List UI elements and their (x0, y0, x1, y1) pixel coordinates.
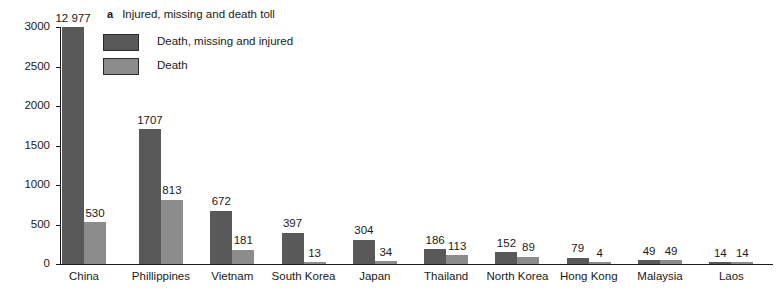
y-tick-label: 2000 (0, 100, 50, 112)
bar-value-label: 89 (522, 242, 535, 254)
y-tick-label: 500 (0, 219, 50, 231)
bar-value-label: 113 (448, 241, 466, 253)
bar-value-label: 186 (426, 235, 445, 247)
bar-death (660, 260, 682, 264)
bar-death (304, 262, 326, 264)
category-label: China (69, 271, 99, 283)
plot-area: 12 9775301707813672181397133043418611315… (60, 27, 773, 264)
bar-group: 1707813 (139, 27, 183, 264)
category-label: Hong Kong (560, 271, 618, 283)
bar-value-label: 14 (714, 248, 727, 260)
bar-death-missing-injured (638, 260, 660, 264)
bar-death (232, 250, 254, 264)
y-tick-label: 0 (0, 258, 50, 270)
category-label: Malaysia (637, 271, 682, 283)
bar-death-missing-injured (62, 27, 84, 264)
bar-group: 794 (567, 27, 611, 264)
bar-group: 12 977530 (62, 27, 106, 264)
bar-chart: a Injured, missing and death toll Death,… (0, 0, 783, 293)
category-label: Laos (719, 271, 744, 283)
bar-death (375, 261, 397, 264)
category-label: Phillippines (132, 271, 190, 283)
category-label: South Korea (272, 271, 336, 283)
bar-death (731, 262, 753, 264)
bar-group: 672181 (210, 27, 254, 264)
bar-value-label: 397 (283, 218, 302, 230)
bar-group: 15289 (495, 27, 539, 264)
bar-death-missing-injured (139, 129, 161, 264)
bar-value-label: 304 (354, 225, 373, 237)
bar-value-label: 672 (212, 196, 231, 208)
y-tick-label: 1500 (0, 140, 50, 152)
category-label: Vietnam (211, 271, 253, 283)
y-tick-label: 1000 (0, 179, 50, 191)
bar-value-label: 49 (643, 246, 656, 258)
bar-death (161, 200, 183, 264)
bar-death-missing-injured (424, 249, 446, 264)
bar-group: 4949 (638, 27, 682, 264)
bar-death-missing-injured (709, 262, 731, 264)
bar-value-label: 813 (162, 185, 181, 197)
bar-death-missing-injured (567, 258, 589, 264)
bar-death-missing-injured (495, 252, 517, 264)
bar-group: 186113 (424, 27, 468, 264)
bar-value-label: 152 (497, 238, 516, 250)
y-tick-label: 2500 (0, 61, 50, 73)
bar-death-missing-injured (282, 233, 304, 264)
y-tick-label: 3000 (0, 21, 50, 33)
bar-value-label: 12 977 (55, 13, 90, 25)
bar-death (84, 222, 106, 264)
bar-value-label: 4 (597, 248, 603, 260)
bar-death (446, 255, 468, 264)
bar-death-missing-injured (210, 211, 232, 264)
category-label: Thailand (424, 271, 468, 283)
bar-value-label: 13 (308, 248, 321, 260)
bar-value-label: 14 (736, 248, 749, 260)
bar-value-label: 530 (85, 208, 104, 220)
category-label: Japan (359, 271, 390, 283)
bar-value-label: 49 (665, 246, 678, 258)
bar-group: 30434 (353, 27, 397, 264)
bar-group: 39713 (282, 27, 326, 264)
bar-value-label: 79 (571, 243, 584, 255)
bar-death (589, 262, 611, 264)
bar-value-label: 1707 (137, 115, 163, 127)
y-tick-mark (56, 264, 60, 265)
bar-death-missing-injured (353, 240, 375, 264)
bar-value-label: 181 (234, 235, 253, 247)
bar-value-label: 34 (379, 247, 392, 259)
category-label: North Korea (486, 271, 548, 283)
bar-death (517, 257, 539, 264)
bar-group: 1414 (709, 27, 753, 264)
